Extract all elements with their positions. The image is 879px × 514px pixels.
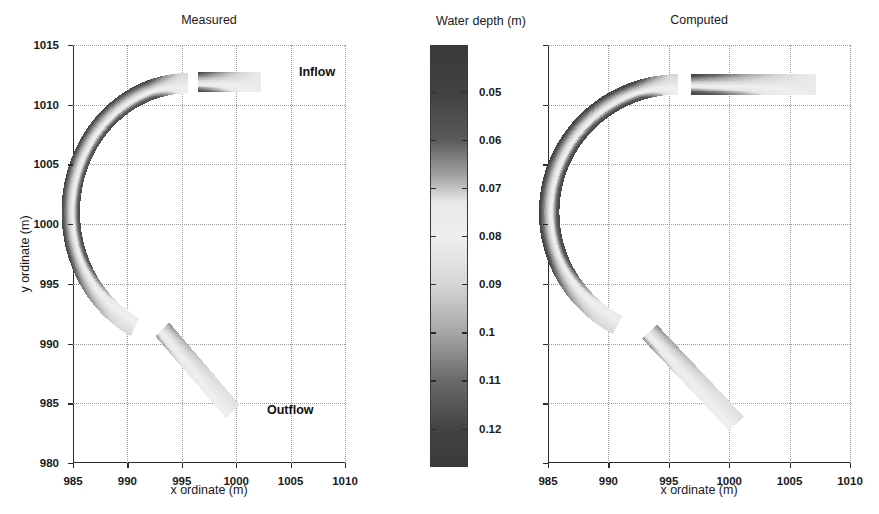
depth-cell	[547, 211, 548, 213]
depth-cell	[215, 87, 217, 88]
figure-canvas: 9809859909951000100510101015985990995100…	[0, 0, 879, 514]
depth-cell	[728, 87, 731, 88]
depth-cell	[741, 93, 744, 94]
depth-cell	[804, 91, 807, 92]
depth-cell	[184, 84, 186, 85]
depth-cell	[778, 87, 781, 88]
depth-cell	[544, 204, 545, 206]
depth-cell	[77, 220, 78, 222]
depth-cell	[810, 81, 813, 82]
depth-cell	[244, 91, 246, 92]
depth-cell	[706, 81, 709, 82]
depth-cell	[72, 206, 73, 208]
depth-cell	[247, 83, 249, 84]
depth-cell	[725, 81, 728, 82]
depth-cell	[674, 89, 676, 90]
depth-cell	[219, 88, 221, 89]
depth-cell	[220, 83, 222, 84]
depth-cell	[228, 73, 230, 74]
depth-cell	[694, 91, 697, 92]
depth-cell	[750, 75, 753, 76]
depth-cell	[247, 73, 249, 74]
depth-cell	[697, 87, 700, 88]
depth-cell	[225, 80, 227, 81]
depth-cell	[244, 73, 246, 74]
depth-cell	[238, 80, 240, 81]
depth-cell	[744, 81, 747, 82]
depth-cell	[219, 77, 221, 78]
depth-cell	[794, 93, 797, 94]
depth-cell	[731, 91, 734, 92]
depth-cell	[753, 87, 756, 88]
depth-cell	[728, 81, 731, 82]
depth-cell	[64, 216, 65, 218]
depth-cell	[744, 85, 747, 86]
depth-cell	[797, 86, 800, 87]
depth-cell	[200, 84, 202, 85]
depth-cell	[200, 87, 202, 88]
depth-cell	[706, 83, 709, 84]
depth-cell	[198, 78, 200, 79]
depth-cell	[544, 202, 545, 204]
depth-cell	[713, 90, 716, 91]
depth-cell	[214, 91, 216, 92]
depth-cell	[700, 93, 703, 94]
depth-cell	[731, 77, 734, 78]
depth-cell	[245, 84, 247, 85]
depth-cell	[670, 83, 672, 84]
depth-cell	[672, 85, 674, 86]
depth-cell	[766, 80, 769, 81]
x-tick	[790, 463, 791, 468]
y-tick-label: 1005	[33, 158, 59, 170]
depth-cell	[548, 215, 549, 217]
depth-cell	[234, 76, 236, 77]
depth-cell	[807, 93, 810, 94]
depth-cell	[186, 82, 188, 83]
depth-cell	[215, 77, 217, 78]
depth-cell	[201, 73, 203, 74]
depth-cell	[198, 81, 200, 82]
depth-cell	[731, 77, 734, 78]
depth-cell	[697, 88, 700, 89]
depth-cell	[75, 210, 76, 212]
depth-cell	[709, 87, 712, 88]
depth-cell	[62, 210, 63, 212]
depth-cell	[241, 77, 243, 78]
depth-cell	[220, 80, 222, 81]
depth-cell	[559, 207, 560, 209]
depth-cell	[709, 89, 712, 90]
depth-cell	[244, 88, 246, 89]
depth-cell	[222, 84, 224, 85]
depth-cell	[778, 76, 781, 77]
depth-cell	[209, 76, 211, 77]
depth-cell	[807, 92, 810, 93]
depth-cell	[253, 73, 255, 74]
depth-cell	[225, 90, 227, 91]
depth-cell	[750, 83, 753, 84]
depth-cell	[735, 88, 738, 89]
depth-cell	[735, 81, 738, 82]
depth-cell	[813, 84, 816, 85]
depth-cell	[74, 208, 75, 210]
depth-cell	[260, 87, 262, 88]
depth-cell	[219, 79, 221, 80]
depth-cell	[186, 90, 188, 91]
depth-cell	[211, 79, 213, 80]
depth-cell	[543, 213, 544, 215]
depth-cell	[760, 83, 763, 84]
depth-cell	[738, 84, 741, 85]
depth-cell	[813, 94, 816, 95]
depth-cell	[766, 88, 769, 89]
depth-cell	[223, 75, 225, 76]
depth-cell	[234, 87, 236, 88]
depth-cell	[244, 75, 246, 76]
depth-cell	[70, 201, 71, 203]
depth-cell	[245, 84, 247, 85]
depth-cell	[212, 80, 214, 81]
depth-cell	[211, 75, 213, 76]
depth-cell	[772, 77, 775, 78]
depth-cell	[258, 79, 260, 80]
depth-cell	[208, 80, 210, 81]
depth-cell	[256, 76, 258, 77]
depth-cell	[719, 83, 722, 84]
